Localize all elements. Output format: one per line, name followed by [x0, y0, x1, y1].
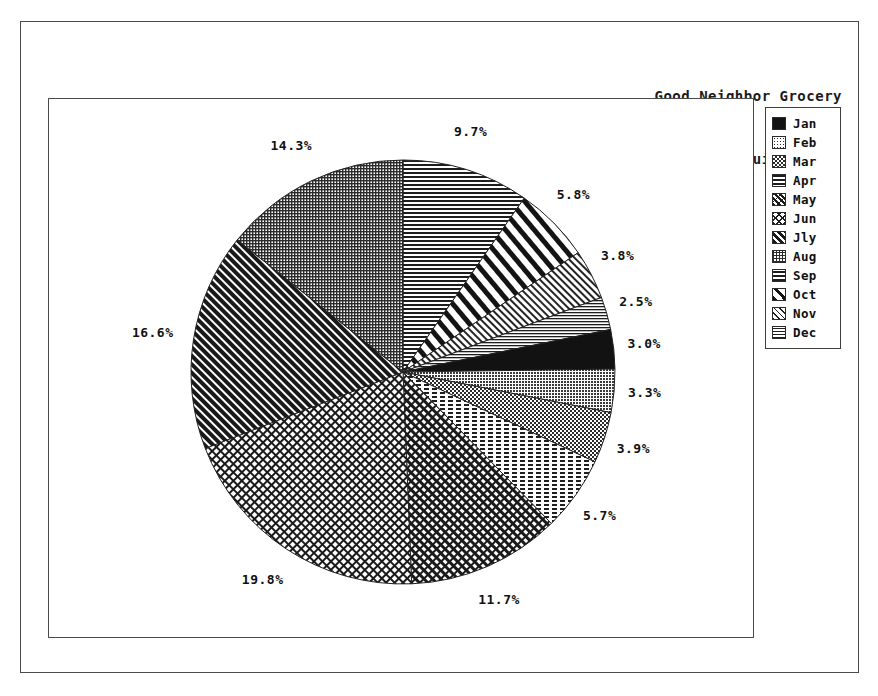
pie-percent-label-nov: 3.8% — [601, 248, 634, 263]
pie-percent-label-dec: 2.5% — [619, 294, 652, 309]
legend-label: Mar — [793, 155, 817, 168]
legend-label: Dec — [793, 326, 817, 339]
legend-swatch-sparse-bold-diagonal-icon — [772, 288, 786, 301]
pie-percent-label-aug: 14.3% — [271, 138, 313, 153]
legend-label: Apr — [793, 174, 817, 187]
legend-label: Oct — [793, 288, 817, 301]
legend-swatch-diagonal-cross-icon — [772, 193, 786, 206]
legend-swatch-thick-diagonal-icon — [772, 231, 786, 244]
pie-percent-label-jun: 19.8% — [242, 572, 284, 587]
legend-item-apr[interactable]: Apr — [772, 171, 835, 190]
legend-item-jan[interactable]: Jan — [772, 114, 835, 133]
legend-label: Nov — [793, 307, 817, 320]
legend-swatch-horizontal-dashes-icon — [772, 174, 786, 187]
legend-label: Jly — [793, 231, 817, 244]
legend-label: Aug — [793, 250, 817, 263]
legend-item-mar[interactable]: Mar — [772, 152, 835, 171]
legend-label: Sep — [793, 269, 817, 282]
legend: JanFebMarAprMayJunJlyAugSepOctNovDec — [765, 107, 841, 349]
legend-swatch-fine-diagonal-icon — [772, 307, 786, 320]
legend-swatch-fine-dots-icon — [772, 136, 786, 149]
legend-label: Feb — [793, 136, 817, 149]
pie-percent-label-jly: 16.6% — [132, 325, 174, 340]
legend-item-aug[interactable]: Aug — [772, 247, 835, 266]
legend-swatch-solid-black-icon — [772, 117, 786, 130]
pie-percent-label-may: 11.7% — [478, 592, 520, 607]
legend-swatch-fine-grid-icon — [772, 250, 786, 263]
legend-item-may[interactable]: May — [772, 190, 835, 209]
pie-percent-label-oct: 5.8% — [557, 187, 590, 202]
plot-area-border — [48, 98, 754, 638]
legend-item-dec[interactable]: Dec — [772, 323, 835, 342]
legend-swatch-checkerboard-icon — [772, 155, 786, 168]
legend-item-jun[interactable]: Jun — [772, 209, 835, 228]
legend-item-nov[interactable]: Nov — [772, 304, 835, 323]
pie-percent-label-apr: 5.7% — [583, 508, 616, 523]
legend-label: May — [793, 193, 817, 206]
pie-percent-label-jan: 3.0% — [628, 336, 661, 351]
legend-swatch-x-hatch-icon — [772, 212, 786, 225]
legend-item-sep[interactable]: Sep — [772, 266, 835, 285]
legend-item-oct[interactable]: Oct — [772, 285, 835, 304]
pie-percent-label-sep: 9.7% — [454, 124, 487, 139]
legend-item-jly[interactable]: Jly — [772, 228, 835, 247]
pie-percent-label-mar: 3.9% — [617, 441, 650, 456]
legend-label: Jun — [793, 212, 817, 225]
legend-item-feb[interactable]: Feb — [772, 133, 835, 152]
pie-percent-label-feb: 3.3% — [628, 385, 661, 400]
legend-swatch-thin-horizontal-icon — [772, 326, 786, 339]
legend-swatch-horizontal-lines-icon — [772, 269, 786, 282]
legend-label: Jan — [793, 117, 817, 130]
